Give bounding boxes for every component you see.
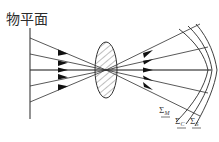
image-surface-label-sagittal: ΣS [190,117,198,127]
arrowhead-out-4 [143,75,153,80]
outgoing-ray-arrowheads [143,50,153,90]
outgoing-ray-5 [106,70,200,116]
arrowhead-out-3 [143,67,153,72]
object-plane-label: 物平面 [6,12,48,26]
arrowhead-in-1 [58,50,68,56]
image-surface-label-meridional: ΣM [159,106,169,116]
optical-ray-diagram-figure: 物平面 ΣM ΣC ΣS [0,0,219,142]
incoming-ray-5 [30,70,106,102]
incoming-ray-arrowheads [58,50,68,91]
image-surface-curves [176,24,217,126]
sigma-subscript-sagittal: S [195,121,198,127]
incoming-ray-1 [30,38,106,70]
arrowhead-in-5 [58,84,68,90]
image-surface-meridional [176,29,208,122]
sigma-subscript-circle: C [180,121,184,127]
outgoing-ray-bundle [106,24,211,116]
image-surface-circle [186,26,212,124]
image-surface-label-circle: ΣC [175,117,184,127]
arrowhead-in-3 [58,67,68,72]
image-surface-sagittal [195,24,217,126]
outgoing-ray-2 [106,47,208,70]
outgoing-ray-1 [106,24,200,70]
outgoing-ray-4 [106,70,208,93]
sigma-subscript-meridional: M [164,110,169,116]
arrowhead-out-2 [143,59,153,64]
